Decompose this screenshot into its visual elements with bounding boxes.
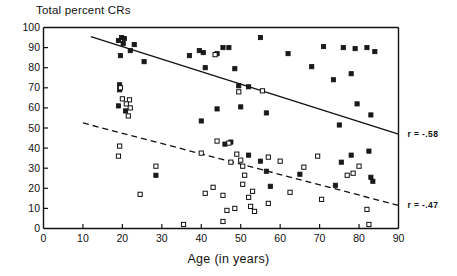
data-point-open <box>225 208 229 212</box>
x-tick-label: 50 <box>229 232 253 244</box>
data-point-open <box>266 201 270 205</box>
data-point-filled <box>233 67 237 71</box>
x-tick-label: 70 <box>308 232 332 244</box>
correlation-annotation: r = -.47 <box>408 200 439 210</box>
data-point-filled <box>123 109 127 113</box>
data-point-filled <box>187 54 191 58</box>
x-tick-label: 90 <box>387 232 411 244</box>
data-point-open <box>229 160 233 164</box>
data-point-filled <box>227 46 231 50</box>
data-point-open <box>250 189 254 193</box>
x-tick-label: 30 <box>150 232 174 244</box>
axis-ticks <box>44 48 360 229</box>
data-point-open <box>235 152 239 156</box>
data-point-filled <box>298 172 302 176</box>
data-point-filled <box>333 183 337 187</box>
data-point-filled <box>237 84 241 88</box>
data-point-open <box>345 173 349 177</box>
data-point-filled <box>369 113 373 117</box>
data-point-filled <box>321 44 325 48</box>
data-point-open <box>248 204 252 208</box>
data-point-open <box>199 151 203 155</box>
data-point-open <box>237 90 241 94</box>
data-point-filled <box>339 160 343 164</box>
data-point-filled <box>132 42 136 46</box>
data-point-filled <box>367 149 371 153</box>
data-point-open <box>118 144 122 148</box>
data-point-filled <box>286 52 290 56</box>
data-point-open <box>278 159 282 163</box>
data-point-open <box>241 164 245 168</box>
data-point-open <box>252 209 256 213</box>
data-point-open <box>138 192 142 196</box>
data-point-filled <box>116 104 120 108</box>
data-point-filled <box>239 105 243 109</box>
data-point-open <box>211 185 215 189</box>
data-point-filled <box>128 49 132 53</box>
data-point-open <box>243 173 247 177</box>
x-tick-label: 20 <box>110 232 134 244</box>
data-point-open <box>241 182 245 186</box>
data-point-filled <box>258 159 262 163</box>
data-point-filled <box>369 175 373 179</box>
data-point-filled <box>268 184 272 188</box>
data-point-open <box>367 222 371 226</box>
scatter-plot-figure: Total percent CRs Age (in years) 0102030… <box>0 0 457 276</box>
data-point-filled <box>118 54 122 58</box>
data-point-open <box>227 141 231 145</box>
data-point-filled <box>373 50 377 54</box>
data-point-open <box>239 158 243 162</box>
data-point-filled <box>221 46 225 50</box>
data-point-filled <box>331 78 335 82</box>
x-tick-label: 60 <box>268 232 292 244</box>
data-point-filled <box>355 102 359 106</box>
data-point-open <box>302 165 306 169</box>
data-point-filled <box>349 72 353 76</box>
data-point-filled <box>154 173 158 177</box>
data-point-filled <box>258 35 262 39</box>
data-points <box>116 35 377 226</box>
x-tick-label: 0 <box>32 232 56 244</box>
data-point-open <box>357 164 361 168</box>
solid-regression <box>91 37 399 134</box>
x-tick-label: 10 <box>71 232 95 244</box>
data-point-open <box>351 171 355 175</box>
data-point-open <box>213 53 217 57</box>
axes-frame <box>44 28 399 229</box>
data-point-filled <box>341 46 345 50</box>
data-point-filled <box>122 36 126 40</box>
data-point-filled <box>203 66 207 70</box>
data-point-open <box>215 139 219 143</box>
trendlines <box>83 37 399 206</box>
data-point-open <box>116 154 120 158</box>
data-point-open <box>221 193 225 197</box>
x-tick-label: 40 <box>189 232 213 244</box>
data-point-open <box>118 86 122 90</box>
data-point-open <box>128 106 132 110</box>
data-point-filled <box>201 51 205 55</box>
data-point-open <box>154 164 158 168</box>
data-point-open <box>288 190 292 194</box>
data-point-open <box>266 155 270 159</box>
data-point-open <box>365 207 369 211</box>
data-point-filled <box>264 111 268 115</box>
data-point-open <box>233 206 237 210</box>
data-point-open <box>319 197 323 201</box>
data-point-filled <box>264 169 268 173</box>
data-point-open <box>126 114 130 118</box>
data-point-open <box>247 195 251 199</box>
data-point-filled <box>310 65 314 69</box>
data-point-filled <box>142 60 146 64</box>
data-point-filled <box>215 107 219 111</box>
data-point-open <box>221 219 225 223</box>
data-point-open <box>316 154 320 158</box>
data-point-filled <box>247 85 251 89</box>
data-point-open <box>120 97 124 101</box>
data-point-open <box>181 222 185 226</box>
data-point-open <box>203 191 207 195</box>
data-point-filled <box>371 179 375 183</box>
data-point-filled <box>121 41 125 45</box>
x-tick-label: 80 <box>347 232 371 244</box>
data-point-filled <box>199 119 203 123</box>
data-point-filled <box>337 123 341 127</box>
